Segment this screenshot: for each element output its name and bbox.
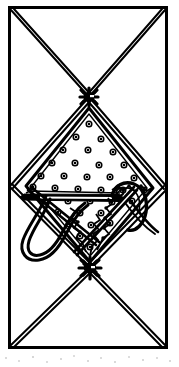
thread-bead bbox=[101, 236, 104, 239]
stipple-dot-core bbox=[77, 188, 80, 191]
stipple-dot-core bbox=[87, 149, 90, 152]
stipple-dot-core bbox=[79, 235, 82, 238]
stipple-dot-core bbox=[109, 176, 112, 179]
stipple-dot-core bbox=[75, 136, 78, 139]
upper-knot-highlight bbox=[90, 95, 94, 97]
thread-bead bbox=[116, 184, 119, 187]
stipple-dot-core bbox=[90, 224, 93, 227]
thread-bead bbox=[78, 230, 81, 233]
lower-knot-highlight bbox=[91, 266, 95, 268]
stipple-dot-core bbox=[98, 164, 101, 167]
thread-bead bbox=[76, 220, 79, 223]
stipple-dot-core bbox=[74, 162, 77, 165]
lower-knot bbox=[79, 257, 101, 279]
upper-knot bbox=[80, 88, 98, 106]
stipple-dot-core bbox=[86, 176, 89, 179]
figure-root: Geometric line-art diagram with stippled… bbox=[0, 0, 179, 367]
stipple-dot-core bbox=[100, 189, 103, 192]
stipple-dot-core bbox=[133, 177, 136, 180]
stipple-dot-core bbox=[112, 151, 115, 154]
thread-bead bbox=[127, 184, 130, 187]
stipple-dot-core bbox=[100, 138, 103, 141]
thread-bead bbox=[104, 206, 107, 209]
stipple-dot-core bbox=[100, 212, 103, 215]
line-art-illustration: Geometric line-art diagram with stippled… bbox=[0, 0, 179, 367]
stipple-dot-core bbox=[63, 175, 66, 178]
thread-bead bbox=[103, 216, 106, 219]
stipple-dot-core bbox=[123, 164, 126, 167]
stipple-dot-core bbox=[54, 187, 57, 190]
stipple-dot-core bbox=[40, 175, 43, 178]
stipple-dot-core bbox=[51, 162, 54, 165]
stipple-dot-core bbox=[88, 123, 91, 126]
thread-bead bbox=[139, 184, 142, 187]
stipple-dot-core bbox=[62, 149, 65, 152]
thread-bead bbox=[74, 210, 77, 213]
thread-bead bbox=[102, 226, 105, 229]
